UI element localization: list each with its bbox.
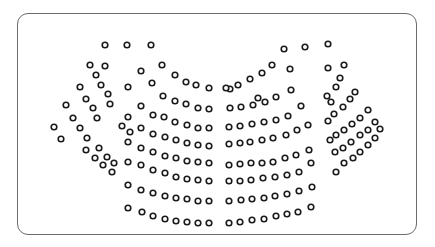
seat-icon (270, 135, 276, 141)
seat-icon (119, 123, 125, 129)
seat-icon (161, 114, 167, 120)
seat-icon (195, 159, 201, 165)
seat-icon (283, 132, 289, 138)
seat-icon (284, 191, 290, 197)
seat-icon (139, 209, 145, 215)
seat-icon (87, 62, 93, 68)
seat-icon (92, 155, 98, 161)
seat-icon (206, 125, 212, 131)
seat-icon (138, 125, 144, 131)
seat-icon (259, 70, 265, 76)
seat-icon (249, 196, 255, 202)
seat-icon (184, 219, 190, 225)
seat-icon (248, 177, 254, 183)
seat-icon (104, 154, 110, 160)
seat-icon (184, 140, 190, 146)
seat-icon (195, 105, 201, 111)
seat-icon (162, 153, 168, 159)
seat-icon (226, 162, 232, 168)
seat-icon (195, 142, 201, 148)
seat-icon (302, 44, 308, 50)
seat-icon (138, 162, 144, 168)
seat-icon (183, 79, 189, 85)
seat-icon (259, 137, 265, 143)
seat-icon (172, 72, 178, 78)
seat-icon (269, 62, 275, 68)
seat-icon (172, 98, 178, 104)
seat-icon (107, 101, 113, 107)
seat-icon (125, 182, 131, 188)
seat-icon (237, 178, 243, 184)
seat-icon (77, 125, 83, 131)
seat-icon (150, 131, 156, 137)
seat-icon (149, 80, 155, 86)
seat-icon (270, 159, 276, 165)
seat-icon (184, 176, 190, 182)
seat-icon (105, 91, 111, 97)
seat-icon (357, 132, 363, 138)
seat-icon (183, 101, 189, 107)
seat-icon (273, 94, 279, 100)
seat-icon (341, 127, 347, 133)
seat-icon (109, 169, 115, 175)
seat-icon (206, 160, 212, 166)
seat-icon (96, 145, 102, 151)
seat-icon (261, 195, 267, 201)
seat-icon (372, 135, 378, 141)
seat-icon (260, 175, 266, 181)
seat-icon (206, 106, 212, 112)
seat-icon (102, 63, 108, 69)
seat-icon (272, 174, 278, 180)
seat-icon (51, 124, 57, 130)
seat-icon (125, 205, 131, 211)
seat-icon (308, 204, 314, 210)
seat-icon (160, 93, 166, 99)
seat-icon (127, 129, 133, 135)
seat-icon (237, 123, 243, 129)
seat-icon (247, 76, 253, 82)
seat-icon (227, 105, 233, 111)
seat-icon (272, 193, 278, 199)
seat-icon (77, 84, 83, 90)
seat-icon (237, 140, 243, 146)
seat-icon (172, 119, 178, 125)
seat-icon (331, 111, 337, 117)
seat-icon (150, 213, 156, 219)
seat-icon (333, 169, 339, 175)
seat-icon (195, 220, 201, 226)
seat-icon (138, 68, 144, 74)
seat-icon (184, 158, 190, 164)
seat-icon (249, 217, 255, 223)
seat-icon (324, 93, 330, 99)
seat-icon (372, 119, 378, 125)
seat-icon (162, 193, 168, 199)
seat-icon (273, 213, 279, 219)
seat-icon (273, 117, 279, 123)
seat-icon (90, 105, 96, 111)
seat-icon (83, 96, 89, 102)
seat-icon (248, 160, 254, 166)
seat-icon (305, 122, 311, 128)
seat-icon (125, 114, 131, 120)
seat-icon (308, 160, 314, 166)
seat-icon (296, 169, 302, 175)
seat-icon (150, 167, 156, 173)
seat-icon (195, 177, 201, 183)
seat-icon (102, 42, 108, 48)
seat-icon (63, 102, 69, 108)
seat-icon (288, 87, 294, 93)
seat-icon (328, 99, 334, 105)
seat-icon (365, 127, 371, 133)
seat-icon (150, 190, 156, 196)
seat-icon (365, 107, 371, 113)
seat-icon (357, 149, 363, 155)
seat-icon (206, 143, 212, 149)
seat-icon (341, 62, 347, 68)
seat-icon (162, 134, 168, 140)
seat-icon (162, 170, 168, 176)
hemicycle-seating-diagram (0, 0, 435, 247)
seat-icon (282, 155, 288, 161)
seat-icon (284, 172, 290, 178)
seat-icon (340, 104, 346, 110)
seat-icon (306, 147, 312, 153)
